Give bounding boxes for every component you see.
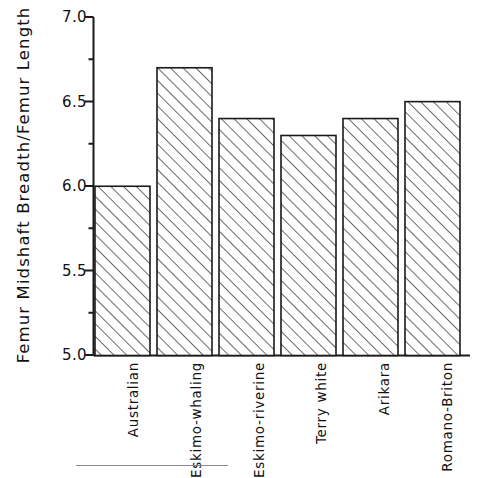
y-axis-major-ticks xyxy=(85,17,94,355)
x-category-label: Arikara xyxy=(377,362,391,462)
x-category-label-text: Romano-Briton xyxy=(439,362,455,472)
x-category-label-text: Australian xyxy=(125,362,141,437)
bar-series xyxy=(95,68,460,356)
x-category-label: Terry white xyxy=(314,362,328,462)
x-axis-category-labels: Australian Eskimo-whaling Eskimo-riverin… xyxy=(0,362,480,466)
bar xyxy=(343,119,398,356)
x-category-label-text: Terry white xyxy=(313,362,329,444)
x-category-label: Romano-Briton xyxy=(440,362,454,462)
bar xyxy=(95,186,150,355)
bar xyxy=(281,135,336,355)
bar xyxy=(405,102,460,356)
x-category-label-text: Eskimo-riverine xyxy=(251,362,267,478)
x-category-label-text: Eskimo-whaling xyxy=(188,362,204,478)
bar xyxy=(157,68,212,356)
x-category-label: Australian xyxy=(126,362,140,462)
x-category-label-text: Arikara xyxy=(376,362,392,415)
x-category-label: Eskimo-whaling xyxy=(189,362,203,462)
bar xyxy=(219,119,274,356)
footer-rule xyxy=(76,465,228,466)
x-category-label: Eskimo-riverine xyxy=(252,362,266,462)
